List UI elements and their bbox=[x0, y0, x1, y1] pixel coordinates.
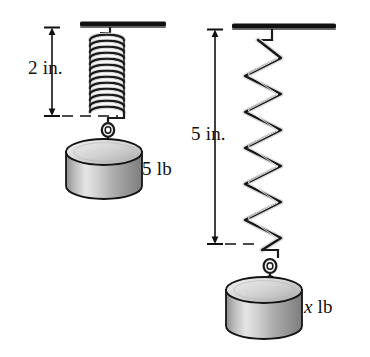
left-weight-label: 5 lb bbox=[142, 158, 172, 180]
right-weight-unit: lb bbox=[318, 296, 333, 317]
right-weight-variable: x bbox=[304, 296, 313, 317]
left-weight-cylinder bbox=[66, 139, 142, 199]
right-weight-cylinder bbox=[226, 277, 302, 339]
right-spring-coils bbox=[245, 40, 281, 250]
right-spring-system bbox=[207, 24, 336, 340]
right-ceiling-bar bbox=[232, 24, 336, 31]
right-dimension-label: 5 in. bbox=[191, 123, 226, 145]
left-spring-coils bbox=[90, 35, 124, 112]
left-dimension-label: 2 in. bbox=[28, 57, 63, 79]
left-spring-tail bbox=[108, 112, 124, 124]
right-weight-label: x lb bbox=[304, 296, 333, 318]
left-ceiling-bar bbox=[80, 22, 166, 29]
